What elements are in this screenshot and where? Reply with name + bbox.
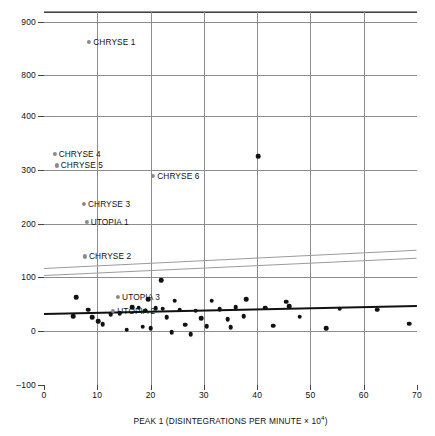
data-point [263, 305, 268, 310]
data-point [204, 324, 209, 329]
data-point [234, 305, 239, 310]
y-tick-200 [38, 224, 44, 225]
data-point [140, 325, 145, 330]
point-label-chryse-4: CHRYSE 4 [59, 150, 101, 158]
data-point [188, 332, 193, 337]
data-point [226, 317, 231, 322]
labeled-data-point-marker [55, 163, 59, 167]
data-point [287, 304, 292, 309]
gridline-y-900 [44, 22, 417, 23]
x-axis-spine [44, 12, 417, 13]
x-tick-label-60: 60 [359, 391, 369, 400]
data-point [161, 306, 166, 311]
data-point [407, 321, 412, 326]
data-point [124, 327, 129, 332]
point-label-utopia-1: UTOPIA 1 [91, 218, 129, 226]
y-tick-800 [38, 75, 44, 76]
x-axis-title: PEAK 1 (DISINTEGRATIONS PER MINUTE × 104… [44, 414, 417, 426]
labeled-data-point-marker [82, 202, 86, 206]
data-point [159, 278, 164, 283]
data-point [183, 322, 188, 327]
data-point [244, 297, 249, 302]
point-label-chryse-2: CHRYSE 2 [89, 252, 131, 260]
y-tick-100 [38, 277, 44, 278]
data-point [242, 314, 247, 319]
gridline-y-100 [44, 277, 417, 278]
y-tick-400 [38, 116, 44, 117]
point-label-chryse-3: CHRYSE 3 [88, 200, 130, 208]
plot-area: –1000100200300400800900 010203040506070 … [44, 11, 417, 385]
data-point [210, 298, 215, 303]
data-point [172, 298, 177, 303]
regression-line-segment [44, 305, 417, 315]
data-point [199, 316, 204, 321]
data-point [164, 315, 169, 320]
data-point [90, 315, 95, 320]
y-axis-title: PEAK 2 (DISINTEGRATIONS PER MINUTE) [14, 0, 24, 436]
point-label-utopia-2: UTOPIA 2 [117, 307, 155, 315]
labeled-data-point-marker [87, 40, 91, 44]
x-tick-label-70: 70 [412, 391, 422, 400]
point-label-chryse-6: CHRYSE 6 [157, 172, 199, 180]
gridline-x-30 [204, 11, 205, 385]
data-point [375, 307, 380, 312]
x-axis-title-text: PEAK 1 (DISINTEGRATIONS PER MINUTE × 10 [133, 416, 321, 426]
data-point [194, 308, 199, 313]
y-axis-break [41, 87, 49, 104]
data-point [218, 307, 223, 312]
gridline-x-50 [310, 11, 311, 385]
data-point [71, 314, 76, 319]
data-point [170, 330, 175, 335]
labeled-data-point-marker [53, 152, 57, 156]
data-point [86, 307, 91, 312]
x-tick-label-20: 20 [146, 391, 156, 400]
gridline-y-800 [44, 75, 417, 76]
x-tick-label-40: 40 [252, 391, 262, 400]
data-point [178, 307, 183, 312]
x-tick-label-0: 0 [42, 391, 47, 400]
data-point [228, 325, 233, 330]
scatter-plot-figure: –1000100200300400800900 010203040506070 … [0, 0, 435, 436]
x-tick-label-10: 10 [92, 391, 102, 400]
gridline-x-40 [257, 11, 258, 385]
data-point [256, 154, 261, 159]
x-tick-label-30: 30 [199, 391, 209, 400]
data-point [271, 324, 276, 329]
data-point [297, 314, 302, 319]
labeled-data-point-marker [83, 254, 87, 258]
gridline-y-0 [44, 331, 417, 332]
gridline-y-400 [44, 116, 417, 117]
y-tick-900 [38, 22, 44, 23]
data-point [74, 295, 79, 300]
gridline-x-60 [364, 11, 365, 385]
labeled-data-point-marker [151, 174, 155, 178]
labeled-data-point-marker [116, 295, 120, 299]
data-point [337, 306, 342, 311]
gridline-x-10 [97, 11, 98, 385]
data-point [324, 326, 329, 331]
data-point [100, 322, 105, 327]
y-tick-0 [38, 331, 44, 332]
point-label-chryse-1: CHRYSE 1 [93, 38, 135, 46]
y-tick-300 [38, 170, 44, 171]
x-axis-title-tail: ) [325, 416, 328, 426]
y-tick-label-0: 0 [31, 327, 36, 336]
x-tick-label-50: 50 [305, 391, 315, 400]
data-point [148, 326, 153, 331]
point-label-utopia-3: UTOPIA 3 [122, 293, 160, 301]
point-label-chryse-5: CHRYSE 5 [61, 161, 103, 169]
